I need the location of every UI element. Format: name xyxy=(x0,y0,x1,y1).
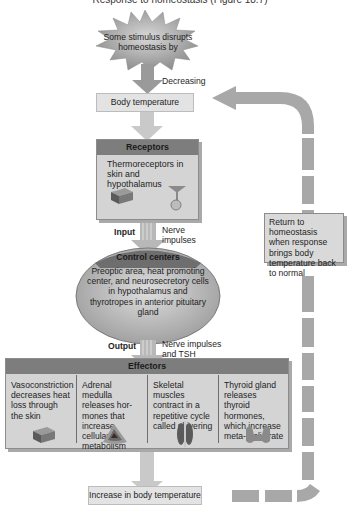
output-detail-label: Nerve impulses and TSH xyxy=(162,339,222,359)
control-centers-text: Preoptic area, heat promoting center, an… xyxy=(86,266,210,317)
skin-block-icon xyxy=(31,426,57,444)
body-temperature-box: Body temperature xyxy=(96,93,194,112)
arrow-stimulus-to-body-temperature xyxy=(132,64,163,94)
output-label: Output xyxy=(108,341,136,351)
skin-block-icon xyxy=(109,186,135,206)
increase-body-temperature-box: Increase in body temperature xyxy=(88,486,202,505)
skeletal-muscle-icon xyxy=(176,421,194,447)
thyroid-gland-icon xyxy=(244,425,272,445)
effectors-title: Effectors xyxy=(6,359,288,374)
receptors-title: Receptors xyxy=(97,140,198,155)
stimulus-text: Some stimulus disrupts homeostasis by xyxy=(100,32,196,52)
receptors-panel: Receptors Thermoreceptors in skin and hy… xyxy=(96,139,199,220)
effector-text: Vasoconstriction decreases heat loss thr… xyxy=(11,380,71,421)
feedback-box: Return to homeostasis when response brin… xyxy=(264,213,344,263)
arrow-body-temperature-to-receptors xyxy=(131,112,163,141)
control-centers-title: Control centers xyxy=(96,252,200,262)
hypothalamus-neuron-icon xyxy=(167,184,187,212)
decreasing-label: Decreasing xyxy=(162,76,205,86)
adrenal-gland-icon xyxy=(100,422,130,446)
input-detail-label: Nerve impulses xyxy=(162,225,210,245)
effectors-panel: Effectors Vasoconstriction decreases hea… xyxy=(5,358,289,449)
input-label: Input xyxy=(114,227,135,237)
